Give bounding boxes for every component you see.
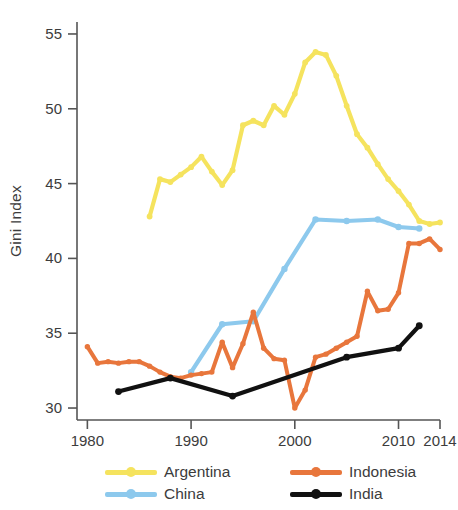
x-tick-label: 2014 bbox=[410, 432, 458, 449]
data-point bbox=[250, 118, 256, 124]
data-point bbox=[199, 154, 205, 160]
data-point bbox=[219, 182, 225, 188]
y-tick-label: 55 bbox=[22, 25, 62, 42]
data-point bbox=[313, 354, 318, 359]
legend-item-india[interactable]: India bbox=[290, 484, 383, 504]
data-point bbox=[385, 307, 390, 312]
data-point bbox=[427, 221, 433, 227]
data-point bbox=[395, 345, 402, 352]
legend-item-indonesia[interactable]: Indonesia bbox=[290, 462, 416, 482]
data-point bbox=[416, 225, 422, 231]
data-point bbox=[437, 220, 443, 226]
series-line bbox=[87, 239, 440, 408]
gini-index-line-chart: Gini Index 303540455055 1980199020002010… bbox=[0, 0, 458, 510]
data-point bbox=[375, 308, 380, 313]
data-point bbox=[147, 214, 153, 220]
legend-line-swatch-icon bbox=[290, 466, 342, 478]
data-point bbox=[292, 405, 297, 410]
data-point bbox=[230, 167, 236, 173]
data-point bbox=[240, 122, 246, 128]
data-point bbox=[343, 354, 350, 361]
data-point bbox=[188, 372, 193, 377]
x-tick-label: 1980 bbox=[57, 432, 117, 449]
data-point bbox=[302, 60, 308, 66]
data-point bbox=[406, 241, 411, 246]
data-point bbox=[344, 103, 350, 109]
legend-marker-dot bbox=[126, 467, 136, 477]
x-tick-label: 1990 bbox=[161, 432, 221, 449]
data-point bbox=[116, 360, 121, 365]
data-point bbox=[417, 241, 422, 246]
data-point bbox=[219, 321, 225, 327]
data-point bbox=[199, 371, 204, 376]
data-point bbox=[292, 91, 298, 97]
x-tick-label: 2000 bbox=[265, 432, 325, 449]
y-tick-label: 35 bbox=[22, 324, 62, 341]
data-point bbox=[396, 290, 401, 295]
legend-label: China bbox=[164, 486, 205, 502]
y-tick-label: 50 bbox=[22, 100, 62, 117]
data-point bbox=[437, 247, 442, 252]
legend-line-swatch-icon bbox=[105, 488, 157, 500]
data-point bbox=[240, 341, 245, 346]
data-point bbox=[416, 218, 422, 224]
data-point bbox=[313, 49, 319, 55]
data-point bbox=[343, 218, 349, 224]
data-point bbox=[229, 393, 236, 400]
y-tick-label: 45 bbox=[22, 175, 62, 192]
plot-canvas bbox=[0, 0, 458, 460]
legend-label: Indonesia bbox=[349, 464, 416, 480]
legend-marker-dot bbox=[311, 467, 321, 477]
legend-label: Argentina bbox=[164, 464, 230, 480]
data-point bbox=[416, 322, 423, 329]
data-point bbox=[85, 344, 90, 349]
data-point bbox=[375, 161, 381, 167]
data-point bbox=[178, 172, 184, 178]
data-point bbox=[220, 340, 225, 345]
legend-marker-dot bbox=[311, 489, 321, 499]
data-point bbox=[302, 387, 307, 392]
data-point bbox=[344, 340, 349, 345]
data-point bbox=[282, 357, 287, 362]
data-point bbox=[282, 112, 288, 118]
data-point bbox=[157, 369, 162, 374]
data-point bbox=[230, 365, 235, 370]
data-point bbox=[115, 388, 122, 395]
y-tick-label: 30 bbox=[22, 399, 62, 416]
data-point bbox=[167, 179, 173, 185]
y-tick-label: 40 bbox=[22, 249, 62, 266]
data-point bbox=[251, 310, 256, 315]
legend-label: India bbox=[349, 486, 383, 502]
chart-legend: ArgentinaChinaIndonesiaIndia bbox=[0, 460, 458, 510]
data-point bbox=[354, 334, 359, 339]
series-line bbox=[150, 52, 440, 224]
series-india bbox=[115, 322, 423, 399]
y-axis-title: Gini Index bbox=[7, 141, 25, 301]
data-point bbox=[209, 369, 214, 374]
data-point bbox=[147, 363, 152, 368]
data-point bbox=[312, 216, 318, 222]
plot-area: Gini Index 303540455055 1980199020002010… bbox=[0, 0, 458, 460]
data-point bbox=[271, 103, 277, 109]
legend-item-china[interactable]: China bbox=[105, 484, 205, 504]
data-point bbox=[323, 351, 328, 356]
data-point bbox=[396, 188, 402, 194]
data-point bbox=[375, 216, 381, 222]
data-point bbox=[323, 52, 329, 58]
data-point bbox=[95, 360, 100, 365]
legend-item-argentina[interactable]: Argentina bbox=[105, 462, 230, 482]
legend-marker-dot bbox=[126, 489, 136, 499]
data-point bbox=[365, 145, 371, 151]
data-point bbox=[271, 356, 276, 361]
data-point bbox=[137, 359, 142, 364]
data-point bbox=[395, 224, 401, 230]
data-point bbox=[188, 164, 194, 170]
data-point bbox=[105, 359, 110, 364]
data-point bbox=[261, 122, 267, 128]
data-point bbox=[209, 169, 215, 175]
data-point bbox=[261, 345, 266, 350]
series-line bbox=[118, 326, 419, 396]
data-point bbox=[333, 73, 339, 79]
data-point bbox=[385, 176, 391, 182]
legend-line-swatch-icon bbox=[105, 466, 157, 478]
